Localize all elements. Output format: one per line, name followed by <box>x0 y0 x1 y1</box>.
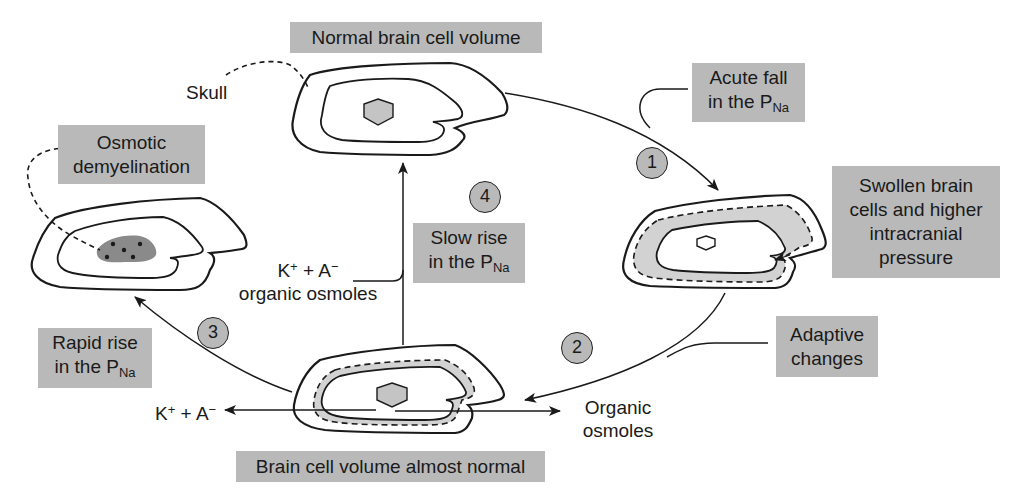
step-1-badge: 1 <box>636 147 668 179</box>
skull-pointer-line <box>226 62 309 90</box>
label-adaptive-changes: Adaptive changes <box>776 316 878 377</box>
label-rapid-rise: Rapid rise in the PNa <box>38 328 152 388</box>
swollen-cell-nucleus <box>697 236 715 250</box>
step-1-arrow <box>505 93 718 190</box>
step-2-badge: 2 <box>561 332 593 364</box>
label-efflux-organic-osmoles: Organic osmoles <box>578 396 658 442</box>
label-slow-rise: Slow rise in the PNa <box>413 223 525 283</box>
label-skull: Skull <box>186 81 227 104</box>
label-acute-fall: Acute fall in the PNa <box>692 63 805 122</box>
adaptive-changes-connector <box>667 343 768 357</box>
normal-brain-cell <box>292 63 507 155</box>
step-4-badge: 4 <box>469 181 501 213</box>
step-3-badge: 3 <box>197 317 229 349</box>
normal-cell-nucleus <box>364 99 393 125</box>
label-brain-cell-volume-almost-normal: Brain cell volume almost normal <box>236 451 545 482</box>
swollen-brain-cell <box>623 195 826 288</box>
label-influx-ions: K+ + A− organic osmoles <box>230 255 386 305</box>
acute-fall-connector <box>640 89 688 128</box>
label-efflux-left-ions: K+ + A− <box>155 398 216 425</box>
step-2-arrow <box>525 293 725 400</box>
swollen-cell-membrane <box>657 221 786 273</box>
label-osmotic-demyelination: Osmotic demyelination <box>58 125 205 184</box>
label-swollen-brain-cells: Swollen brain cells and higher intracran… <box>832 166 1000 278</box>
label-normal-brain-cell-volume: Normal brain cell volume <box>290 22 542 53</box>
almost-normal-brain-cell <box>294 345 504 433</box>
demyelination-brain-cell <box>32 198 247 290</box>
